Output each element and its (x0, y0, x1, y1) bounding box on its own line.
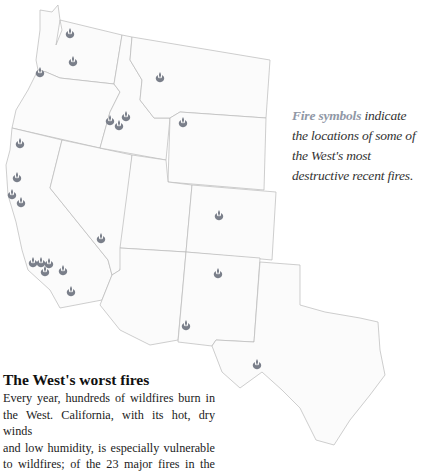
article-body-line: the West. California, with its hot, dry … (3, 407, 215, 440)
fire-symbol-icon (213, 209, 225, 221)
fire-symbol-icon (180, 319, 192, 331)
state-montana (130, 37, 270, 118)
article-body-line: Every year, hundreds of wildfires burn i… (3, 390, 215, 407)
fire-symbol-icon (177, 116, 189, 128)
fire-symbol-icon (11, 171, 23, 183)
fire-symbol-icon (14, 137, 26, 149)
fire-symbol-icon (251, 358, 263, 370)
article-section: The West's worst fires Every year, hundr… (3, 370, 215, 473)
fire-symbol-icon (113, 119, 125, 131)
fire-symbol-icon (95, 232, 107, 244)
article-body-line: and low humidity, is especially vulnerab… (3, 440, 215, 457)
state-colorado (186, 185, 276, 260)
fire-symbol-icon (39, 265, 51, 277)
fire-symbol-icon (154, 71, 166, 83)
state-washington (36, 5, 122, 84)
fire-symbol-icon (67, 55, 79, 67)
map-legend-caption: Fire symbols indicate the locations of s… (292, 106, 424, 186)
fire-symbol-icon (212, 267, 224, 279)
article-heading: The West's worst fires (3, 370, 215, 390)
fire-symbol-icon (15, 196, 27, 208)
article-body-line: to wildfires; of the 23 major fires in t… (3, 456, 215, 473)
legend-lead: Fire symbols (292, 108, 361, 123)
fire-symbol-icon (65, 285, 77, 297)
fire-symbol-icon (64, 27, 76, 39)
fire-symbol-icon (57, 264, 69, 276)
fire-symbol-icon (34, 66, 46, 78)
